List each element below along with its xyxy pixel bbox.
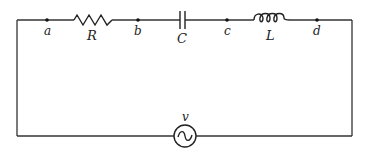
ac-source-symbol: [174, 125, 196, 147]
rlc-circuit-diagram: a R b C c L d v: [0, 0, 370, 156]
capacitor-label: C: [177, 31, 187, 46]
inductor-symbol: [254, 14, 290, 22]
inductor-label: L: [265, 28, 275, 43]
resistor-symbol: [74, 15, 112, 25]
node-c-label: c: [224, 24, 231, 38]
capacitor-symbol: [180, 11, 185, 29]
node-d-label: d: [313, 24, 321, 38]
node-c-dot: [225, 18, 229, 22]
node-b-label: b: [134, 24, 142, 38]
node-a-dot: [45, 18, 49, 22]
resistor-label: R: [86, 28, 97, 43]
node-d-dot: [315, 18, 319, 22]
sine-wave-icon: [178, 132, 192, 141]
node-a-label: a: [44, 24, 51, 38]
node-b-dot: [136, 18, 140, 22]
source-label: v: [182, 110, 189, 124]
